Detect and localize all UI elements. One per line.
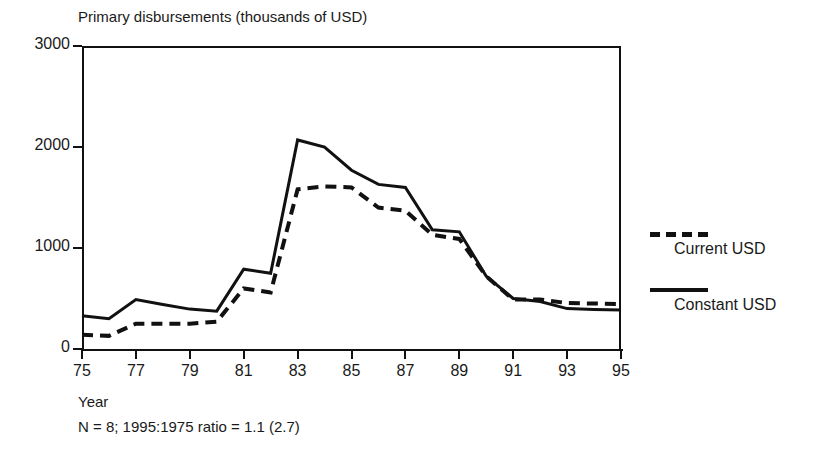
chart-figure: Primary disbursements (thousands of USD)… <box>0 0 816 466</box>
x-axis-tick <box>351 350 353 359</box>
x-axis-tick <box>404 350 406 359</box>
x-axis-label: 95 <box>601 362 641 380</box>
plot-area <box>82 46 621 349</box>
x-axis-label: 91 <box>493 362 533 380</box>
x-axis-tick <box>189 350 191 359</box>
x-axis-label: 93 <box>547 362 587 380</box>
x-axis-label: 87 <box>385 362 425 380</box>
x-axis-title: Year <box>78 393 108 410</box>
x-axis-label: 83 <box>278 362 318 380</box>
y-axis-tick <box>73 247 82 249</box>
y-axis-label: 2000 <box>8 136 70 154</box>
legend-label: Current USD <box>674 240 766 258</box>
legend-item-constant-usd: Constant USD <box>650 278 816 334</box>
x-axis-label: 75 <box>62 362 102 380</box>
x-axis-tick <box>512 350 514 359</box>
x-axis-tick <box>135 350 137 359</box>
x-axis-tick <box>566 350 568 359</box>
x-axis-label: 81 <box>224 362 264 380</box>
x-axis-tick <box>243 350 245 359</box>
chart-title: Primary disbursements (thousands of USD) <box>78 8 367 25</box>
x-axis-tick <box>458 350 460 359</box>
y-axis-tick <box>73 146 82 148</box>
y-axis-tick <box>73 45 82 47</box>
y-axis-label: 0 <box>8 338 70 356</box>
legend-swatch-solid-icon <box>650 288 708 292</box>
x-axis-label: 79 <box>170 362 210 380</box>
y-axis-label: 3000 <box>8 35 70 53</box>
x-axis-line <box>82 349 623 351</box>
y-axis-label: 1000 <box>8 237 70 255</box>
legend-swatch-dashed-icon <box>650 232 708 237</box>
x-axis-tick <box>297 350 299 359</box>
chart-footnote: N = 8; 1995:1975 ratio = 1.1 (2.7) <box>78 418 300 435</box>
x-axis-label: 89 <box>439 362 479 380</box>
chart-legend: Current USD Constant USD <box>650 222 816 334</box>
x-axis-label: 85 <box>332 362 372 380</box>
x-axis-label: 77 <box>116 362 156 380</box>
legend-item-current-usd: Current USD <box>650 222 816 278</box>
x-axis-tick <box>81 350 83 359</box>
legend-label: Constant USD <box>674 296 776 314</box>
x-axis-tick <box>620 350 622 359</box>
